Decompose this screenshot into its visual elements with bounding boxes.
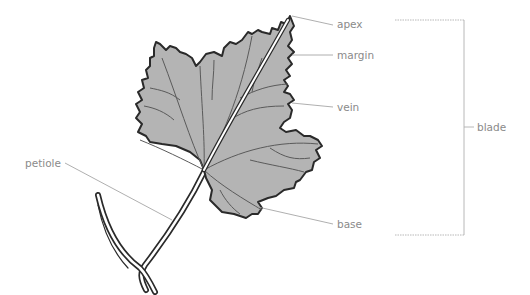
label-blade: blade	[477, 121, 506, 133]
stem	[98, 170, 205, 292]
label-base: base	[337, 218, 362, 230]
apex-leader	[292, 16, 333, 25]
label-apex: apex	[337, 18, 363, 30]
label-vein: vein	[337, 101, 359, 113]
label-margin: margin	[337, 49, 374, 61]
base-leader	[258, 207, 333, 224]
leaf-diagram: apex margin vein petiole base blade	[0, 0, 530, 295]
vein-leader	[292, 103, 333, 107]
petiole-leader	[65, 163, 172, 220]
blade-bracket	[395, 20, 474, 235]
label-petiole: petiole	[25, 157, 61, 169]
